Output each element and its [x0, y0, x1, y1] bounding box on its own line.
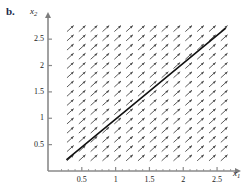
field-arrow: [79, 35, 86, 41]
field-arrow: [114, 136, 121, 142]
field-arrow: [91, 35, 98, 41]
field-arrow: [185, 109, 192, 115]
field-arrow: [91, 146, 98, 152]
field-arrow: [79, 26, 86, 32]
field-arrow: [173, 72, 180, 78]
field-arrow: [138, 155, 145, 161]
field-arrow: [67, 127, 74, 133]
field-arrow: [102, 99, 109, 105]
field-arrow: [221, 146, 228, 152]
field-arrow: [102, 118, 109, 124]
field-arrow: [79, 53, 86, 59]
field-arrow: [185, 118, 192, 124]
field-arrow: [138, 72, 145, 78]
field-arrow: [114, 146, 121, 152]
field-arrow: [221, 109, 228, 115]
field-arrow: [185, 44, 192, 50]
field-arrow: [209, 127, 216, 133]
field-arrow: [150, 109, 157, 115]
field-arrow: [114, 35, 121, 41]
field-arrow: [185, 146, 192, 152]
field-arrow: [138, 81, 145, 87]
field-arrow: [126, 53, 133, 59]
field-arrow: [114, 44, 121, 50]
field-arrow: [102, 26, 109, 32]
field-arrow: [114, 90, 121, 96]
field-arrow: [114, 53, 121, 59]
field-arrow: [126, 35, 133, 41]
field-arrow: [197, 99, 204, 105]
field-arrow: [126, 155, 133, 161]
field-arrow: [162, 118, 169, 124]
field-arrow: [102, 44, 109, 50]
field-arrow: [79, 90, 86, 96]
field-arrow: [67, 146, 74, 152]
field-arrow: [67, 72, 74, 78]
panel-label: b.: [6, 5, 15, 17]
field-arrow: [197, 63, 204, 69]
field-arrow: [79, 155, 86, 161]
field-arrow: [150, 127, 157, 133]
field-arrow: [102, 146, 109, 152]
field-arrow: [162, 26, 169, 32]
field-arrow: [91, 99, 98, 105]
field-arrow: [162, 127, 169, 133]
y-tick-label: 1.5: [22, 87, 44, 96]
field-arrow: [150, 99, 157, 105]
field-arrow: [91, 118, 98, 124]
field-arrow: [197, 127, 204, 133]
field-arrow: [126, 26, 133, 32]
field-arrow: [91, 53, 98, 59]
field-arrow: [67, 90, 74, 96]
field-arrow: [79, 81, 86, 87]
field-arrow: [162, 90, 169, 96]
x-tick-label: 1.5: [137, 175, 161, 184]
field-arrow: [102, 53, 109, 59]
field-arrow: [102, 136, 109, 142]
field-arrow: [79, 136, 86, 142]
field-arrow: [67, 44, 74, 50]
field-arrow: [173, 81, 180, 87]
field-arrow: [67, 109, 74, 115]
field-arrow: [209, 136, 216, 142]
y-tick-label: 2.5: [22, 34, 44, 43]
field-arrow: [126, 63, 133, 69]
field-arrow: [114, 109, 121, 115]
field-arrow: [173, 155, 180, 161]
field-arrow: [150, 146, 157, 152]
field-arrow: [150, 136, 157, 142]
field-arrow: [126, 127, 133, 133]
field-arrow: [209, 109, 216, 115]
field-arrow: [162, 53, 169, 59]
field-arrow: [102, 63, 109, 69]
field-arrow: [185, 99, 192, 105]
x-tick-label: 1: [104, 175, 128, 184]
field-arrow: [114, 26, 121, 32]
field-arrow: [185, 63, 192, 69]
field-arrow: [209, 26, 216, 32]
field-arrow: [221, 90, 228, 96]
field-arrow: [79, 127, 86, 133]
field-arrow: [209, 146, 216, 152]
field-arrow: [221, 155, 228, 161]
field-arrow: [67, 136, 74, 142]
field-arrow: [67, 118, 74, 124]
field-arrow: [79, 99, 86, 105]
field-arrow: [79, 63, 86, 69]
field-arrow: [114, 63, 121, 69]
field-arrow: [138, 26, 145, 32]
field-arrow: [209, 155, 216, 161]
field-arrow: [185, 127, 192, 133]
field-arrow: [185, 81, 192, 87]
field-arrow: [102, 81, 109, 87]
field-arrow: [209, 72, 216, 78]
x-axis-label: x1: [233, 168, 240, 178]
field-arrow: [91, 155, 98, 161]
field-arrow: [150, 53, 157, 59]
field-arrow: [221, 81, 228, 87]
field-arrow: [173, 90, 180, 96]
field-arrow: [173, 53, 180, 59]
field-arrow: [162, 63, 169, 69]
field-arrow: [197, 72, 204, 78]
field-arrow: [197, 53, 204, 59]
